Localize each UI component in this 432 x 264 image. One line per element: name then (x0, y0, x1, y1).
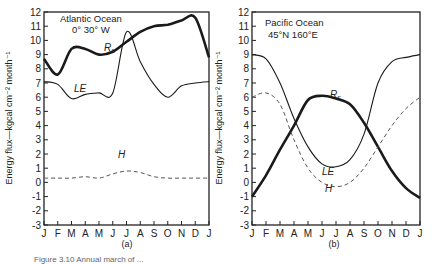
x-tick-label: J (334, 228, 339, 239)
chart-panel-a: -3-2-10123456789101112JFMAMJJASONDJEnerg… (4, 7, 212, 250)
x-tick-label: S (151, 228, 158, 239)
y-tick-label: 6 (243, 92, 249, 103)
figure: -3-2-10123456789101112JFMAMJJASONDJEnerg… (0, 0, 432, 264)
x-tick-label: J (42, 228, 47, 239)
x-tick-label: J (250, 228, 255, 239)
y-tick-label: 0 (35, 177, 41, 188)
x-tick-label: N (178, 228, 185, 239)
y-tick-label: -3 (240, 220, 249, 231)
series-rs (44, 15, 209, 74)
series-rs (252, 96, 420, 198)
chart-title: Atlantic Ocean (60, 13, 122, 24)
y-tick-label: -1 (240, 191, 249, 202)
panel-label: (b) (329, 239, 340, 249)
y-tick-label: -2 (240, 205, 249, 216)
x-tick-label: D (402, 228, 409, 239)
x-tick-label: J (124, 228, 129, 239)
chart-subtitle: 0° 30° W (72, 24, 110, 35)
y-tick-label: 6 (35, 92, 41, 103)
y-tick-label: 8 (243, 63, 249, 74)
label-h: H (118, 149, 126, 160)
y-tick-label: -3 (32, 220, 41, 231)
y-tick-label: 9 (35, 49, 41, 60)
y-tick-label: 1 (243, 163, 249, 174)
figure-caption: Figure 3.10 Annual march of ... (34, 255, 143, 264)
label-rs: Rs (330, 89, 341, 101)
x-tick-label: F (55, 228, 61, 239)
chart-title: Pacific Ocean (265, 17, 324, 28)
y-tick-label: 8 (35, 63, 41, 74)
x-tick-label: A (82, 228, 89, 239)
label-h: H (325, 183, 333, 194)
y-tick-label: 4 (35, 120, 41, 131)
y-tick-label: 11 (31, 21, 42, 32)
plot-frame (44, 12, 209, 225)
x-tick-label: M (276, 228, 284, 239)
y-tick-label: 12 (238, 7, 250, 18)
x-tick-label: F (263, 228, 269, 239)
y-tick-label: 3 (35, 134, 41, 145)
y-tick-label: 1 (35, 163, 41, 174)
y-axis-label: Energy flux—kgcal cm⁻² month⁻¹ (214, 51, 224, 184)
x-tick-label: M (67, 228, 75, 239)
y-tick-label: 10 (30, 35, 42, 46)
chart-subtitle: 45°N 160°E (268, 29, 318, 40)
series-le (252, 55, 420, 168)
x-tick-label: A (347, 228, 354, 239)
y-tick-label: 2 (243, 149, 249, 160)
x-tick-label: A (137, 228, 144, 239)
y-tick-label: 9 (243, 49, 249, 60)
y-tick-label: 5 (35, 106, 41, 117)
x-tick-label: M (304, 228, 312, 239)
panel-label: (a) (122, 239, 133, 249)
x-tick-label: S (361, 228, 368, 239)
label-rs: Rs (104, 42, 115, 54)
y-tick-label: 5 (243, 106, 249, 117)
x-tick-label: M (95, 228, 103, 239)
y-tick-label: 7 (35, 78, 41, 89)
y-tick-label: 2 (35, 149, 41, 160)
y-tick-label: 11 (239, 21, 250, 32)
chart-panel-b: -3-2-10123456789101112JFMAMJJASONDJEnerg… (214, 7, 423, 250)
y-tick-label: 3 (243, 134, 249, 145)
x-tick-label: O (164, 228, 172, 239)
series-h (252, 93, 420, 187)
y-axis-label: Energy flux—kgcal cm⁻² month⁻¹ (4, 51, 14, 184)
y-tick-label: 10 (238, 35, 250, 46)
x-tick-label: J (207, 228, 212, 239)
y-tick-label: 7 (243, 78, 249, 89)
plot-frame (252, 12, 420, 225)
y-tick-label: 0 (243, 177, 249, 188)
x-tick-label: A (291, 228, 298, 239)
y-tick-label: 12 (30, 7, 42, 18)
x-tick-label: J (320, 228, 325, 239)
y-tick-label: 4 (243, 120, 249, 131)
label-le: LE (74, 83, 87, 94)
label-le: LE (322, 166, 335, 177)
x-tick-label: J (110, 228, 115, 239)
x-tick-label: N (388, 228, 395, 239)
y-tick-label: -1 (32, 191, 41, 202)
x-tick-label: D (192, 228, 199, 239)
y-tick-label: -2 (32, 205, 41, 216)
x-tick-label: O (374, 228, 382, 239)
series-h (44, 171, 209, 178)
x-tick-label: J (418, 228, 423, 239)
